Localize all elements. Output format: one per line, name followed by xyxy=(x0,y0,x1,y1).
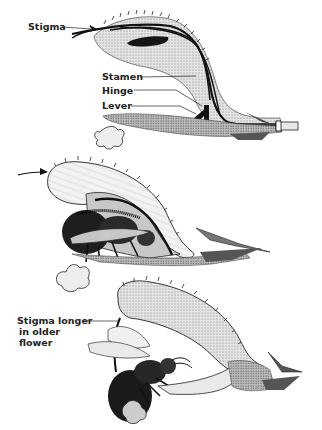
calyx-upper xyxy=(268,352,302,372)
top-flower-section xyxy=(62,10,298,149)
label-line-3: flower xyxy=(17,337,97,348)
calyx-lower xyxy=(200,248,262,262)
lower-lobe-frill xyxy=(95,126,124,149)
lower-lobe-frill xyxy=(56,265,89,292)
stigma-leader xyxy=(62,27,92,29)
arrowhead xyxy=(40,168,48,175)
label-stamen: Stamen xyxy=(102,71,143,82)
middle-flower-bee xyxy=(18,156,270,292)
label-line-1: Stigma longer xyxy=(17,315,97,326)
bee-head xyxy=(160,358,176,374)
label-hinge: Hinge xyxy=(102,85,133,96)
label-line-2: in older xyxy=(17,326,97,337)
lever-leader xyxy=(131,106,196,114)
pollination-diagram xyxy=(0,0,322,430)
label-stigma: Stigma xyxy=(28,21,66,32)
bottom-flower-bee xyxy=(82,276,302,424)
label-stigma-longer: Stigma longer in older flower xyxy=(17,315,97,348)
label-lever: Lever xyxy=(102,100,132,111)
stem-node xyxy=(276,121,281,131)
